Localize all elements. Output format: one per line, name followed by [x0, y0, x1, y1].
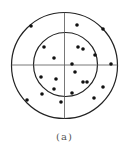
- scatter-dot: [40, 92, 44, 96]
- scatter-dot: [70, 91, 74, 95]
- scatter-dot: [85, 80, 89, 84]
- scatter-dot: [93, 53, 97, 57]
- inner-circle: [34, 33, 98, 97]
- scatter-dot: [52, 56, 56, 60]
- figure-caption: (a): [0, 131, 129, 142]
- scatter-dot: [75, 23, 79, 27]
- scatter-dot: [59, 100, 63, 104]
- target-diagram: [0, 0, 129, 147]
- scatter-dot: [52, 87, 56, 91]
- scatter-dot: [76, 45, 80, 49]
- scatter-dots: [25, 23, 113, 104]
- scatter-dot: [81, 47, 85, 51]
- scatter-dot: [81, 80, 85, 84]
- scatter-dot: [42, 45, 46, 49]
- scatter-dot: [29, 24, 33, 28]
- scatter-dot: [54, 77, 58, 81]
- scatter-dot: [73, 70, 77, 74]
- scatter-dot: [25, 98, 29, 102]
- scatter-dot: [101, 27, 105, 31]
- scatter-dot: [92, 96, 96, 100]
- scatter-dot: [70, 62, 74, 66]
- scatter-dot: [109, 62, 113, 66]
- scatter-dot: [39, 75, 43, 79]
- scatter-dot: [101, 85, 105, 89]
